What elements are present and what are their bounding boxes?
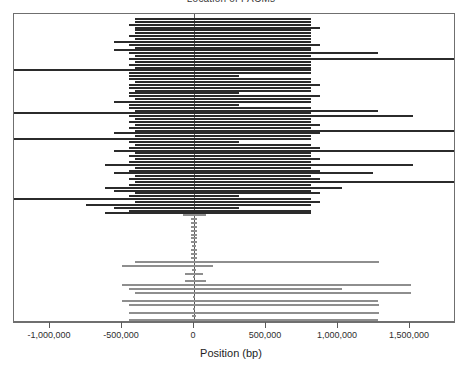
- x-axis-tick-label: -500,000: [103, 330, 139, 340]
- interval-bar: [13, 69, 311, 71]
- interval-bar: [129, 161, 311, 163]
- interval-bar: [114, 207, 239, 209]
- x-axis-tick: [265, 322, 266, 328]
- interval-bar: [135, 32, 311, 34]
- interval-bar: [129, 87, 311, 89]
- interval-bar: [129, 312, 379, 314]
- interval-bar: [191, 257, 197, 259]
- interval-bar: [135, 67, 311, 69]
- interval-bar: [193, 296, 196, 298]
- interval-bar: [191, 234, 197, 236]
- interval-bar: [129, 92, 239, 94]
- x-axis-tick: [193, 322, 194, 328]
- interval-bar: [183, 214, 205, 216]
- interval-bar: [114, 172, 373, 174]
- interval-bar: [13, 198, 311, 200]
- interval-bar: [129, 210, 311, 212]
- interval-bar: [135, 21, 311, 23]
- interval-bar: [135, 201, 320, 203]
- interval-bar: [135, 38, 311, 40]
- interval-bar: [114, 132, 321, 134]
- interval-bar: [135, 29, 311, 31]
- interval-bar: [129, 35, 311, 37]
- interval-bar: [135, 152, 311, 154]
- plot-inner: [14, 14, 454, 321]
- x-axis-tick-label: 1,500,000: [389, 330, 429, 340]
- interval-bar: [135, 98, 311, 100]
- interval-bar: [129, 58, 455, 60]
- interval-bar: [114, 190, 312, 192]
- interval-bar: [191, 241, 197, 243]
- interval-bar: [135, 144, 311, 146]
- interval-bar: [129, 75, 239, 77]
- interval-bar: [129, 44, 321, 46]
- interval-bar: [129, 155, 311, 157]
- interval-bar: [135, 261, 379, 263]
- interval-bar: [129, 84, 321, 86]
- interval-bar: [129, 24, 311, 26]
- interval-bar: [135, 118, 311, 120]
- x-axis-tick: [49, 322, 50, 328]
- interval-bar: [129, 288, 342, 290]
- interval-bar: [105, 164, 413, 166]
- interval-bar: [191, 237, 197, 239]
- x-axis-tick-label: 500,000: [249, 330, 282, 340]
- interval-bar: [105, 187, 343, 189]
- interval-bar: [122, 300, 379, 302]
- interval-bar: [191, 249, 197, 251]
- interval-bar: [129, 184, 311, 186]
- interval-bar: [129, 52, 378, 54]
- chart-title: Location of PACMs: [0, 0, 462, 4]
- interval-bar: [114, 101, 312, 103]
- x-axis-tick: [121, 322, 122, 328]
- interval-bar: [129, 319, 378, 321]
- interval-bar: [129, 304, 379, 306]
- interval-bar: [129, 121, 311, 123]
- interval-bar: [135, 181, 455, 183]
- x-axis-tick-label: 1,000,000: [317, 330, 357, 340]
- chart-root: Location of PACMs -1,000,000-500,0000500…: [0, 0, 462, 372]
- interval-bar: [129, 115, 413, 117]
- interval-bar: [135, 130, 455, 132]
- interval-bar: [185, 273, 202, 275]
- interval-bar: [185, 280, 205, 282]
- interval-bar: [135, 135, 311, 137]
- interval-bar: [122, 284, 412, 286]
- interval-bar: [129, 72, 311, 74]
- interval-bar: [192, 315, 196, 317]
- interval-bar: [135, 110, 378, 112]
- interval-bar: [129, 170, 321, 172]
- plot-area: [13, 13, 455, 322]
- x-axis-tick-label: -1,000,000: [27, 330, 70, 340]
- interval-bar: [135, 292, 411, 294]
- x-axis-tick-label: 0: [190, 330, 195, 340]
- interval-bar: [122, 265, 213, 267]
- interval-bar: [135, 27, 320, 29]
- interval-bar: [135, 55, 311, 57]
- interval-bar: [129, 95, 321, 97]
- interval-bar: [135, 18, 311, 20]
- interval-bar: [191, 218, 197, 220]
- interval-bar: [114, 41, 312, 43]
- interval-bar: [135, 61, 311, 63]
- interval-bar: [13, 138, 311, 140]
- interval-bar: [191, 230, 197, 232]
- interval-bar: [135, 90, 311, 92]
- interval-bar: [135, 167, 311, 169]
- interval-bar: [135, 175, 311, 177]
- interval-bar: [191, 253, 197, 255]
- interval-bar: [129, 104, 239, 106]
- x-axis-tick: [337, 322, 338, 328]
- interval-bar: [129, 178, 321, 180]
- interval-bar: [135, 124, 320, 126]
- interval-bar: [13, 112, 311, 114]
- x-axis-line: [13, 322, 455, 323]
- interval-bar: [129, 127, 311, 129]
- interval-bar: [129, 147, 321, 149]
- interval-bar: [192, 269, 196, 271]
- interval-bar: [129, 78, 311, 80]
- x-axis-tick: [409, 322, 410, 328]
- interval-bar: [135, 192, 320, 194]
- interval-bar: [129, 64, 311, 66]
- x-axis-label: Position (bp): [0, 347, 462, 359]
